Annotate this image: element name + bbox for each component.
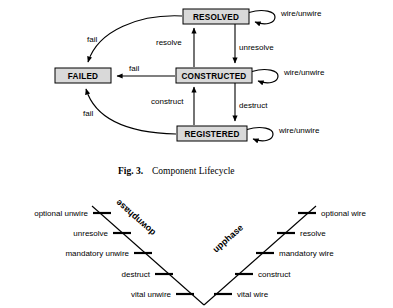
upphase-label: upphase: [211, 222, 245, 254]
loop-constructed: wire/unwire: [252, 68, 325, 83]
state-constructed-label: CONSTRUCTED: [182, 72, 247, 81]
up-step-resolve-label: resolve: [300, 229, 326, 238]
loop-registered: wire/unwire: [247, 126, 320, 141]
transition-construct-label: construct: [151, 97, 184, 106]
transition-fail-registered: fail: [83, 89, 176, 134]
state-resolved[interactable]: RESOLVED: [183, 9, 249, 24]
down-step-destruct-label: destruct: [122, 270, 151, 279]
up-step-mandatory-wire-label: mandatory wire: [279, 249, 334, 258]
transition-resolve: resolve: [156, 28, 194, 67]
transition-fail-resolved-label: fail: [87, 35, 97, 44]
transition-destruct: destruct: [235, 83, 268, 121]
state-resolved-label: RESOLVED: [193, 13, 239, 22]
transition-fail-constructed-label: fail: [129, 64, 139, 73]
down-step-vital-unwire-label: vital unwire: [131, 290, 172, 299]
transition-construct: construct: [151, 87, 194, 125]
figure-caption: Fig. 3. Component Lifecycle: [118, 166, 235, 176]
down-step-mandatory-unwire-label: mandatory unwire: [65, 249, 129, 258]
transition-resolve-label: resolve: [156, 38, 182, 47]
transition-unresolve-label: unresolve: [239, 43, 274, 52]
state-registered-label: REGISTERED: [184, 130, 239, 139]
state-registered[interactable]: REGISTERED: [177, 126, 247, 141]
figure-component-lifecycle: wire/unwire wire/unwire wire/unwire reso…: [0, 0, 393, 308]
transition-destruct-label: destruct: [239, 101, 268, 110]
upphase-steps: vital wire construct mandatory wire reso…: [214, 209, 366, 299]
caption-text: Component Lifecycle: [152, 166, 235, 176]
transition-fail-constructed: fail: [117, 64, 175, 76]
loop-registered-label: wire/unwire: [278, 126, 320, 135]
up-step-construct-label: construct: [258, 270, 291, 279]
up-step-vital-wire-label: vital wire: [237, 290, 269, 299]
down-step-optional-unwire-label: optional unwire: [34, 209, 88, 218]
up-step-optional-wire-label: optional wire: [321, 209, 366, 218]
loop-resolved: wire/unwire: [249, 9, 322, 24]
loop-resolved-label: wire/unwire: [280, 9, 322, 18]
state-constructed[interactable]: CONSTRUCTED: [176, 68, 252, 83]
loop-constructed-label: wire/unwire: [283, 68, 325, 77]
caption-prefix: Fig. 3.: [118, 166, 143, 176]
state-failed[interactable]: FAILED: [55, 68, 111, 83]
downphase-steps: optional unwire unresolve mandatory unwi…: [34, 209, 194, 299]
transition-fail-registered-label: fail: [83, 109, 93, 118]
transition-unresolve: unresolve: [235, 24, 274, 63]
state-failed-label: FAILED: [68, 72, 98, 81]
down-step-unresolve-label: unresolve: [73, 229, 108, 238]
